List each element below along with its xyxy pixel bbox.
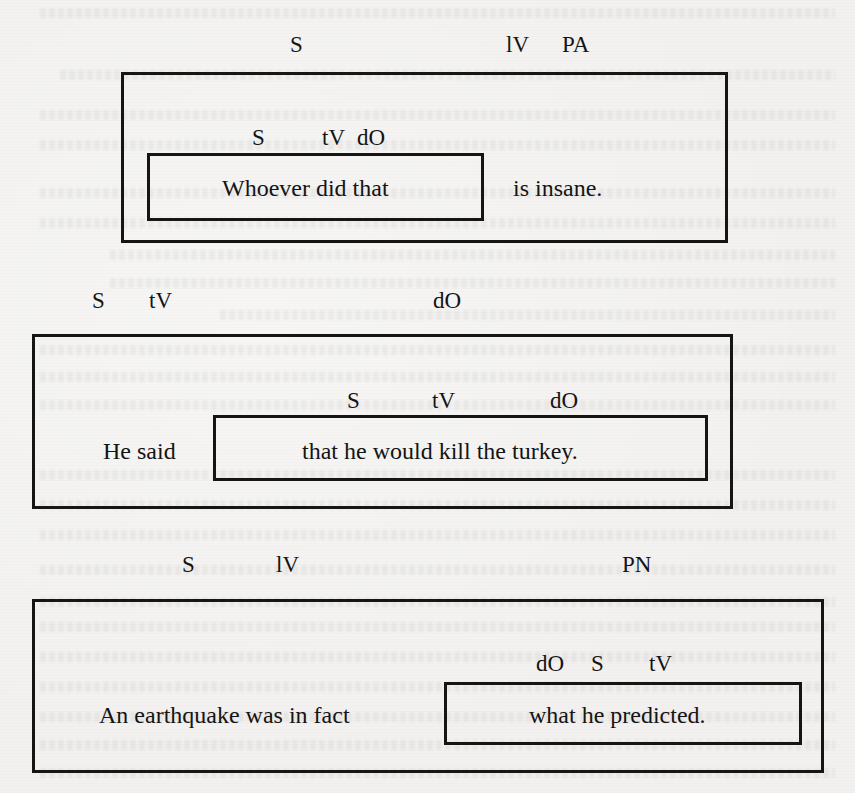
bleed-through-text [40, 8, 835, 18]
label-direct-object: dO [433, 289, 461, 312]
label-linking-verb: lV [506, 33, 529, 56]
bleed-through-text [110, 278, 835, 288]
noun-clause-text: what he predicted. [529, 703, 706, 727]
label-transitive-verb: tV [322, 126, 345, 149]
label-subject: S [290, 33, 303, 56]
label-subject: S [182, 553, 195, 576]
main-clause-text: is insane. [513, 176, 602, 200]
label-transitive-verb: tV [649, 652, 672, 675]
label-subject: S [591, 652, 604, 675]
main-clause-text: He said [103, 439, 176, 463]
label-subject: S [92, 289, 105, 312]
bleed-through-text [220, 310, 835, 320]
main-clause-text: An earthquake was in fact [99, 703, 350, 727]
label-subject: S [252, 126, 265, 149]
label-direct-object: dO [550, 389, 578, 412]
label-predicate-nominative: PN [622, 553, 651, 576]
label-transitive-verb: tV [432, 389, 455, 412]
noun-clause-text: Whoever did that [222, 176, 389, 200]
noun-clause-text: that he would kill the turkey. [302, 439, 578, 463]
label-direct-object: dO [357, 126, 385, 149]
label-subject: S [347, 389, 360, 412]
label-linking-verb: lV [276, 553, 299, 576]
label-transitive-verb: tV [149, 289, 172, 312]
bleed-through-text [40, 530, 835, 540]
label-direct-object: dO [536, 652, 564, 675]
label-predicate-adjective: PA [562, 33, 589, 56]
bleed-through-text [40, 565, 835, 575]
bleed-through-text [110, 250, 835, 260]
